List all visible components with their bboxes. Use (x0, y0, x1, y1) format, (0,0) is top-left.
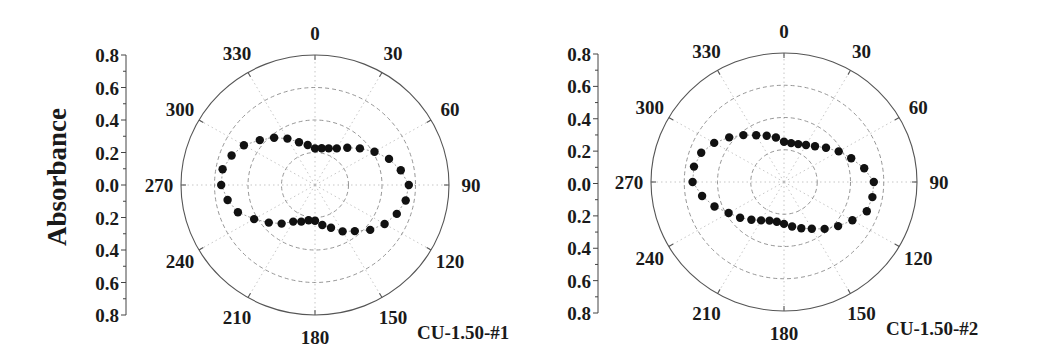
grid-spoke (718, 182, 785, 294)
data-point (304, 141, 312, 149)
angle-label: 270 (145, 175, 174, 196)
data-point (802, 141, 810, 149)
angle-label: 180 (770, 323, 799, 344)
angle-tick (669, 244, 673, 247)
angle-label: 330 (692, 41, 721, 62)
angle-label: 240 (166, 251, 195, 272)
data-point (297, 217, 305, 225)
data-point (710, 202, 718, 210)
radial-tick-label: 0.6 (567, 271, 591, 292)
data-point (218, 165, 226, 173)
angle-tick (199, 248, 203, 251)
angle-tick (895, 244, 899, 247)
angle-tick (427, 120, 431, 123)
data-point (765, 216, 773, 224)
data-point (234, 208, 242, 216)
data-point (794, 140, 802, 148)
angle-label: 150 (379, 307, 408, 328)
radial-tick-label: 0.0 (95, 175, 119, 196)
angle-label: 120 (436, 251, 465, 272)
angle-label: 300 (636, 97, 665, 118)
angle-tick (848, 70, 851, 74)
y-axis-title: Absorbance (42, 108, 72, 246)
angle-label: 180 (301, 327, 330, 348)
data-point (688, 178, 696, 186)
radial-tick-label: 0.8 (567, 44, 591, 65)
grid-spoke (784, 182, 899, 247)
data-point (325, 144, 333, 152)
angle-label: 120 (904, 248, 933, 269)
data-point (808, 225, 816, 233)
radial-tick-label: 0.2 (95, 208, 119, 229)
sample-label-1: CU-1.50-#1 (417, 322, 509, 343)
figure-canvas: Absorbance 0.80.60.40.20.00.20.40.60.8 0… (0, 0, 1037, 356)
angle-tick (848, 289, 851, 293)
radial-tick-label: 0.8 (567, 303, 591, 324)
angle-label: 90 (462, 175, 481, 196)
polar-plot-2: 0306090120150180210240270300330 (615, 21, 949, 344)
data-point (860, 164, 868, 172)
angle-label: 150 (847, 303, 876, 324)
angle-label: 210 (692, 303, 721, 324)
data-point (277, 219, 285, 227)
angle-tick (718, 70, 721, 74)
data-point (393, 210, 401, 218)
angle-label: 240 (636, 248, 665, 269)
angle-tick (199, 120, 203, 123)
radial-axis-2: 0.80.60.40.20.00.20.40.60.8 (567, 44, 598, 324)
data-point (295, 138, 303, 146)
radial-tick-label: 0.4 (95, 110, 119, 131)
radial-axis-1: 0.80.60.40.20.00.20.40.60.8 (95, 45, 126, 326)
radial-tick-label: 0.2 (95, 143, 119, 164)
data-point (698, 192, 706, 200)
grid-spoke (315, 185, 431, 250)
angle-label: 270 (615, 172, 644, 193)
angle-tick (380, 293, 383, 297)
data-point (752, 131, 760, 139)
data-point (820, 225, 828, 233)
radial-tick-label: 0.6 (567, 76, 591, 97)
angle-label: 330 (223, 43, 252, 64)
grid-spoke (315, 185, 382, 298)
data-point (788, 222, 796, 230)
data-point (402, 196, 410, 204)
angle-tick (248, 72, 251, 76)
data-point (283, 134, 291, 142)
radial-tick-label: 0.6 (95, 273, 119, 294)
polar-panel-1: 0.80.60.40.20.00.20.40.60.8 030609012015… (95, 23, 509, 348)
grid-spoke (248, 185, 315, 298)
data-point (250, 215, 258, 223)
data-point (797, 224, 805, 232)
grid-spoke (784, 70, 851, 182)
radial-tick-label: 0.4 (95, 240, 119, 261)
data-point (223, 196, 231, 204)
data-point (847, 154, 855, 162)
angle-label: 60 (441, 99, 460, 120)
radial-tick-label: 0.2 (567, 141, 591, 162)
data-point (385, 155, 393, 163)
angle-tick (380, 72, 383, 76)
data-point (747, 216, 755, 224)
data-point (736, 214, 744, 222)
angle-label: 30 (384, 43, 403, 64)
data-point (356, 144, 364, 152)
data-point (304, 216, 312, 224)
data-point (289, 217, 297, 225)
sample-label-2: CU-1.50-#2 (886, 318, 978, 339)
data-point (351, 227, 359, 235)
data-point (725, 133, 733, 141)
angle-tick (895, 118, 899, 121)
data-point (338, 227, 346, 235)
data-point (333, 144, 341, 152)
angle-label: 0 (310, 23, 320, 44)
angle-tick (248, 293, 251, 297)
data-point (811, 142, 819, 150)
polar-absorbance-figure: Absorbance 0.80.60.40.20.00.20.40.60.8 0… (0, 0, 1037, 356)
radial-tick-label: 0.2 (567, 206, 591, 227)
angle-label: 60 (909, 97, 928, 118)
data-point (863, 207, 871, 215)
data-point (757, 216, 765, 224)
data-point (270, 134, 278, 142)
angle-label: 0 (779, 21, 789, 42)
data-point (835, 147, 843, 155)
